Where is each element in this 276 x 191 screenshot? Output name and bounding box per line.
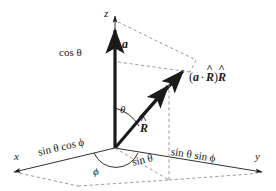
y-axis-label: y <box>255 151 260 162</box>
dashed-mid-parallel <box>118 62 190 72</box>
proj-dot-operator: · <box>199 70 206 84</box>
proj-r-hat-outer-accent: ^ <box>218 63 225 74</box>
proj-r-hat-inner-accent: ^ <box>206 63 213 74</box>
r-hat-glyph-group: R ^ <box>140 122 148 134</box>
vector-diagram-figure: z x y a cos θ θ R ^ (a·R^)R^ sin θ cos ϕ… <box>0 0 276 191</box>
x-axis-label: x <box>14 151 19 162</box>
theta-angle-label: θ <box>120 104 125 115</box>
r-hat-accent: ^ <box>140 114 147 125</box>
proj-r-hat-outer-group: R^ <box>218 71 226 83</box>
dashed-plane-far-edge <box>250 172 262 174</box>
proj-r-hat-inner-group: R^ <box>206 71 214 83</box>
dashed-x-plane-edge <box>14 172 78 186</box>
dashed-plane-bottom-edge <box>78 180 169 186</box>
phi-angle-label: ϕ <box>93 166 99 177</box>
z-axis-label: z <box>104 8 108 19</box>
dashed-plane-right-edge <box>169 174 250 180</box>
projection-vector-label: (a·R^)R^ <box>189 71 226 83</box>
projection-vector-line <box>140 71 183 118</box>
z-component-label: cos θ <box>59 47 82 58</box>
vector-r-hat-label: R ^ <box>140 122 148 134</box>
dashed-a-tip-to-proj-tip <box>118 22 196 60</box>
vector-a-label: a <box>122 38 128 50</box>
